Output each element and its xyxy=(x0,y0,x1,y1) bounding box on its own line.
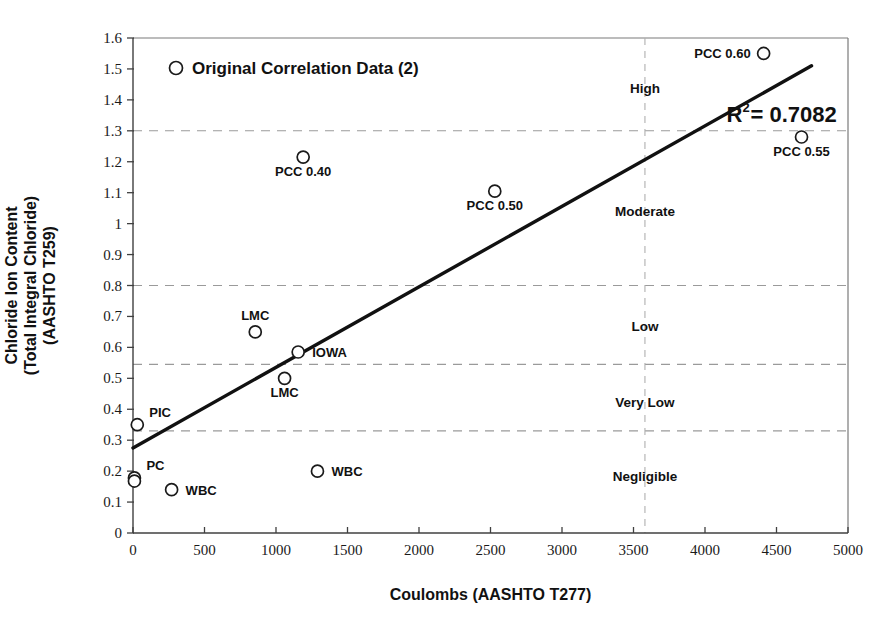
chart-figure: 00.10.20.30.40.50.60.70.80.911.11.21.31.… xyxy=(0,0,886,630)
y-tick-label-3: 0.3 xyxy=(103,432,122,448)
y-tick-label-14: 1.4 xyxy=(103,92,122,108)
x-tick-label-10: 5000 xyxy=(833,542,863,558)
y-tick-label-6: 0.6 xyxy=(103,339,122,355)
y-tick-label-9: 0.9 xyxy=(103,247,122,263)
x-tick-label-4: 2000 xyxy=(404,542,434,558)
zone-label-moderate: Moderate xyxy=(615,204,676,219)
data-point-0[interactable] xyxy=(758,47,770,59)
data-point-label-7: PIC xyxy=(149,405,171,420)
y-tick-label-1: 0.1 xyxy=(103,494,122,510)
data-point-7[interactable] xyxy=(131,419,143,431)
data-point-label-5: IOWA xyxy=(312,345,347,360)
data-point-label-2: PCC 0.40 xyxy=(275,164,331,179)
data-point-label-8: PC xyxy=(146,458,165,473)
y-tick-label-7: 0.7 xyxy=(103,308,122,324)
data-point-10[interactable] xyxy=(166,484,178,496)
zone-label-negligible: Negligible xyxy=(613,469,678,484)
x-tick-label-3: 1500 xyxy=(333,542,363,558)
r-squared-annotation-value: = 0.7082 xyxy=(750,102,836,127)
y-tick-label-4: 0.4 xyxy=(103,401,122,417)
x-tick-label-8: 4000 xyxy=(690,542,720,558)
zone-label-very-low: Very Low xyxy=(615,395,675,410)
legend-marker-icon xyxy=(170,62,183,75)
y-axis-title-line-2: (AASHTO T259) xyxy=(41,226,58,345)
data-point-11[interactable] xyxy=(311,465,323,477)
scatter-chart: 00.10.20.30.40.50.60.70.80.911.11.21.31.… xyxy=(0,0,886,630)
y-tick-label-11: 1.1 xyxy=(103,185,122,201)
x-axis-title: Coulombs (AASHTO T277) xyxy=(390,586,592,603)
y-tick-label-10: 1 xyxy=(115,216,123,232)
y-axis-title-line-1: (Total Integral Chloride) xyxy=(22,196,39,375)
x-tick-label-2: 1000 xyxy=(261,542,291,558)
x-tick-label-5: 2500 xyxy=(476,542,506,558)
data-point-4[interactable] xyxy=(249,326,261,338)
x-tick-label-6: 3000 xyxy=(547,542,577,558)
x-tick-label-0: 0 xyxy=(129,542,137,558)
x-tick-label-7: 3500 xyxy=(619,542,649,558)
y-tick-label-15: 1.5 xyxy=(103,61,122,77)
data-point-label-10: WBC xyxy=(186,483,218,498)
data-point-label-4: LMC xyxy=(241,308,270,323)
data-point-label-3: PCC 0.50 xyxy=(467,198,523,213)
zone-label-low: Low xyxy=(631,319,658,334)
y-tick-label-8: 0.8 xyxy=(103,278,122,294)
y-tick-label-0: 0 xyxy=(115,525,123,541)
data-point-label-11: WBC xyxy=(331,464,363,479)
x-tick-label-1: 500 xyxy=(193,542,216,558)
data-point-label-6: LMC xyxy=(270,385,299,400)
data-point-5[interactable] xyxy=(292,346,304,358)
legend-label: Original Correlation Data (2) xyxy=(192,59,419,78)
data-point-3[interactable] xyxy=(489,185,501,197)
y-tick-label-5: 0.5 xyxy=(103,370,122,386)
data-point-label-0: PCC 0.60 xyxy=(694,46,750,61)
data-point-2[interactable] xyxy=(297,151,309,163)
data-point-label-1: PCC 0.55 xyxy=(773,144,829,159)
data-point-1[interactable] xyxy=(796,131,808,143)
data-point-6[interactable] xyxy=(279,372,291,384)
y-tick-label-16: 1.6 xyxy=(103,30,122,46)
y-tick-label-12: 1.2 xyxy=(103,154,122,170)
y-tick-label-2: 0.2 xyxy=(103,463,122,479)
y-axis-title-line-0: Chloride Ion Content xyxy=(3,206,20,365)
trendline xyxy=(133,66,812,448)
y-tick-label-13: 1.3 xyxy=(103,123,122,139)
r-squared-annotation-base: R xyxy=(726,102,742,127)
x-tick-label-9: 4500 xyxy=(762,542,792,558)
zone-label-high: High xyxy=(630,81,660,96)
data-point-9[interactable] xyxy=(128,475,140,487)
r-squared-annotation-exponent: 2 xyxy=(742,100,749,115)
